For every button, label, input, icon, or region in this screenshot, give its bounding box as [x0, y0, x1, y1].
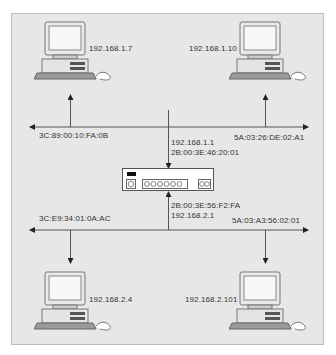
mac-label: 5A:03:26:DE:02:A1 — [234, 133, 304, 143]
host-ip-label: 192.168.1.7 — [89, 44, 132, 54]
router-bottom-mac: 2B:00:3E:56:F2:FA — [171, 201, 240, 211]
router-top-mac: 2B:00:3E:46:20:01 — [171, 148, 239, 158]
host-ip-label: 192.168.2.4 — [89, 295, 132, 305]
host-ip-label: 192.168.2.101 — [185, 295, 237, 305]
network-diagram: 192.168.1.7 192.168.1.10 192.168.2.4 192… — [0, 0, 336, 355]
mac-label: 3C:89:00:10:FA:0B — [39, 131, 108, 141]
router-top-ip: 192.168.1.1 — [171, 138, 214, 148]
computer-icon — [34, 271, 114, 341]
computer-icon — [229, 21, 309, 91]
router-bottom-ip: 192.168.2.1 — [171, 211, 214, 221]
computer-icon — [34, 21, 114, 91]
mac-label: 5A:03:A3:56:02:01 — [232, 216, 300, 226]
mac-label: 3C:E9:34:01:0A:AC — [39, 214, 111, 224]
host-ip-label: 192.168.1.10 — [189, 44, 237, 54]
router-icon — [122, 168, 214, 191]
computer-icon — [229, 271, 309, 341]
